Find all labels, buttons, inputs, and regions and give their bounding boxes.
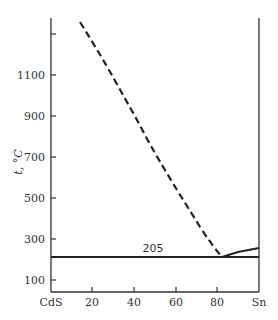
y-tick-100: 100	[24, 274, 45, 287]
phase-diagram: 100 300 500 700 900 1100 t, °C CdS 20 40…	[0, 0, 278, 320]
y-tick-500: 500	[24, 192, 45, 205]
liquidus-sn-side	[222, 248, 259, 257]
y-tick-700: 700	[24, 151, 45, 164]
x-ticks	[92, 287, 217, 292]
x-tick-80: 80	[210, 296, 224, 309]
y-tick-300: 300	[24, 233, 45, 246]
x-tick-cds: CdS	[40, 296, 63, 309]
x-tick-20: 20	[85, 296, 99, 309]
x-tick-40: 40	[127, 296, 141, 309]
eutectic-label: 205	[143, 242, 164, 255]
x-tick-sn: Sn	[252, 296, 267, 309]
y-ticks	[51, 34, 56, 280]
y-axis-label: t, °C	[12, 149, 25, 175]
liquidus-dashed	[80, 22, 222, 257]
y-tick-1100: 1100	[17, 69, 45, 82]
y-tick-900: 900	[24, 110, 45, 123]
x-tick-60: 60	[169, 296, 183, 309]
